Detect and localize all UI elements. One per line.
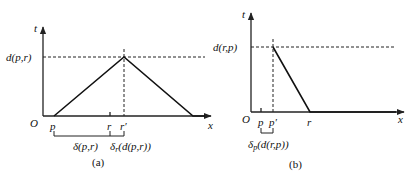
tick-label-p-a: p	[49, 120, 56, 132]
decay-curve-b	[273, 47, 396, 112]
triangle-curve-a	[54, 57, 205, 116]
bracket-label-delta-r: δr(d(p,r))	[110, 140, 151, 154]
panel-a: t x O d(p,r) p r r′ δ(p,r) δr(d(p,r)) (a…	[6, 22, 213, 169]
origin-label-a: O	[30, 117, 38, 129]
tick-label-r-prime-a: r′	[120, 120, 127, 132]
tick-label-r-b: r	[307, 116, 312, 128]
y-axis-label-b: t	[242, 8, 246, 20]
origin-label-b: O	[242, 113, 250, 125]
panel-b: t x O d(r,p) p p′ r δp(d(r,p)) (b)	[213, 8, 404, 171]
bracket-b	[261, 128, 273, 133]
level-label-b: d(r,p)	[213, 41, 237, 54]
x-axis-label-a: x	[207, 119, 213, 131]
tick-label-p-b: p	[257, 116, 264, 128]
diagram-canvas: t x O d(p,r) p r r′ δ(p,r) δr(d(p,r)) (a…	[0, 0, 414, 180]
caption-a: (a)	[92, 156, 105, 169]
bracket-a	[54, 131, 124, 136]
x-axis-label-b: x	[397, 113, 403, 125]
tick-label-p-prime-b: p′	[268, 116, 278, 128]
tick-label-r-a: r	[107, 120, 112, 132]
level-label-a: d(p,r)	[6, 51, 32, 64]
caption-b: (b)	[289, 158, 302, 171]
bracket-label-delta-pr: δ(p,r)	[73, 140, 98, 153]
y-axis-label-a: t	[34, 22, 38, 34]
bracket-label-delta-p: δp(d(r,p))	[248, 138, 289, 152]
